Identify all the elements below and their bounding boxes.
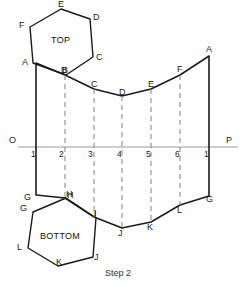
dev-top-label-D: D xyxy=(119,88,126,97)
dev-bottom-label-L: L xyxy=(177,206,182,215)
station-number-1-left: 1 xyxy=(31,150,36,159)
station-number-1-right: 1 xyxy=(204,150,209,159)
dev-top-label-C: C xyxy=(91,80,98,89)
dev-top-label-B: B xyxy=(62,66,68,75)
axis-label-O: O xyxy=(9,136,16,145)
bottom-vertex-label-I: I xyxy=(94,210,97,219)
station-number-4: 4 xyxy=(117,150,122,159)
dev-bottom-label-G-right: G xyxy=(206,195,213,204)
top-vertex-label-F: F xyxy=(19,21,25,30)
station-number-6: 6 xyxy=(175,150,180,159)
station-number-2: 2 xyxy=(59,150,64,159)
dev-bottom-label-K: K xyxy=(147,223,153,232)
top-vertex-label-E: E xyxy=(58,0,64,9)
axis-label-P: P xyxy=(226,136,232,145)
technical-drawing-svg xyxy=(0,0,244,285)
dev-top-label-E: E xyxy=(148,80,154,89)
dev-top-label-F: F xyxy=(177,65,183,74)
dev-top-label-A: A xyxy=(206,45,212,54)
top-vertex-label-A: A xyxy=(22,58,28,67)
bottom-vertex-label-G: G xyxy=(20,204,27,213)
bottom-face-label: BOTTOM xyxy=(40,232,80,241)
bottom-vertex-label-L: L xyxy=(17,243,22,252)
bottom-vertex-label-J: J xyxy=(94,253,99,262)
dev-bottom-label-J: J xyxy=(118,229,123,238)
top-vertex-label-C: C xyxy=(96,53,103,62)
top-face-label: TOP xyxy=(51,36,70,45)
drawing-canvas: A F E D C B TOP B C D E F A O P 1 2 3 4 … xyxy=(0,0,244,285)
bottom-vertex-label-H: H xyxy=(67,191,74,200)
station-number-5: 5 xyxy=(146,150,151,159)
figure-caption: Step 2 xyxy=(105,269,131,278)
dev-bottom-label-G-left: G xyxy=(24,193,31,202)
top-vertex-label-D: D xyxy=(93,13,100,22)
bottom-vertex-label-K: K xyxy=(56,258,62,267)
station-number-3: 3 xyxy=(88,150,93,159)
